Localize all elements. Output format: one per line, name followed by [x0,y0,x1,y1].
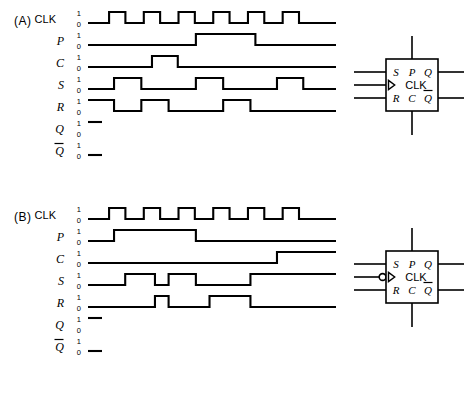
svg-text:0: 0 [77,238,81,247]
svg-text:CLK: CLK [405,271,427,283]
svg-text:1: 1 [77,337,81,346]
svg-text:0: 0 [77,42,81,51]
svg-text:C: C [408,284,416,296]
svg-text:1: 1 [77,119,81,128]
section-b-waveforms: CLK10P10C10S10R10Q10Q10 [0,196,350,386]
svg-text:1: 1 [77,315,81,324]
svg-text:1: 1 [77,205,81,214]
svg-text:1: 1 [77,227,81,236]
svg-text:1: 1 [77,75,81,84]
svg-text:0: 0 [77,216,81,225]
svg-text:0: 0 [77,108,81,117]
svg-text:Q: Q [424,284,432,296]
svg-text:1: 1 [77,31,81,40]
svg-text:0: 0 [77,304,81,313]
figure-canvas: (A) CLK10P10C10S10R10Q10Q10 SPQCLKRCQ (B… [0,0,474,396]
svg-text:P: P [408,258,416,270]
svg-text:P: P [408,66,416,78]
svg-text:1: 1 [77,249,81,258]
svg-text:0: 0 [77,326,81,335]
svg-text:R: R [392,92,400,104]
svg-text:R: R [56,296,65,310]
svg-text:1: 1 [77,293,81,302]
timing-section-a: (A) CLK10P10C10S10R10Q10Q10 SPQCLKRCQ [0,0,474,198]
svg-text:Q: Q [55,144,64,158]
flipflop-drawing-a: SPQCLKRCQ [352,36,470,144]
svg-text:Q: Q [424,92,432,104]
svg-text:C: C [408,92,416,104]
svg-text:Q: Q [55,318,64,332]
svg-text:Q: Q [424,258,432,270]
svg-text:S: S [58,78,64,92]
svg-text:0: 0 [77,64,81,73]
svg-text:P: P [56,230,65,244]
svg-text:1: 1 [77,53,81,62]
waveform-plot-b: CLK10P10C10S10R10Q10Q10 [0,196,350,386]
svg-text:0: 0 [77,20,81,29]
svg-text:0: 0 [77,348,81,357]
svg-text:Q: Q [55,122,64,136]
svg-text:0: 0 [77,130,81,139]
flipflop-drawing-b: SPQCLKRCQ [352,228,470,336]
flipflop-symbol-a: SPQCLKRCQ [352,36,470,144]
flipflop-symbol-b: SPQCLKRCQ [352,228,470,336]
svg-text:CLK: CLK [405,79,427,91]
timing-section-b: (B) CLK10P10C10S10R10Q10Q10 SPQCLKRCQ [0,196,474,396]
svg-text:1: 1 [77,97,81,106]
section-a-waveforms: CLK10P10C10S10R10Q10Q10 [0,0,350,190]
svg-text:0: 0 [77,86,81,95]
svg-text:R: R [392,284,400,296]
svg-text:CLK: CLK [35,209,57,221]
svg-text:0: 0 [77,282,81,291]
svg-text:1: 1 [77,271,81,280]
svg-text:S: S [393,258,399,270]
svg-text:P: P [56,34,65,48]
svg-text:C: C [56,252,65,266]
svg-text:R: R [56,100,65,114]
svg-text:0: 0 [77,152,81,161]
svg-text:1: 1 [77,9,81,18]
svg-text:S: S [58,274,64,288]
svg-text:C: C [56,56,65,70]
waveform-plot-a: CLK10P10C10S10R10Q10Q10 [0,0,350,190]
svg-text:1: 1 [77,141,81,150]
svg-text:S: S [393,66,399,78]
svg-text:Q: Q [424,66,432,78]
svg-text:CLK: CLK [35,13,57,25]
svg-text:0: 0 [77,260,81,269]
svg-text:Q: Q [55,340,64,354]
